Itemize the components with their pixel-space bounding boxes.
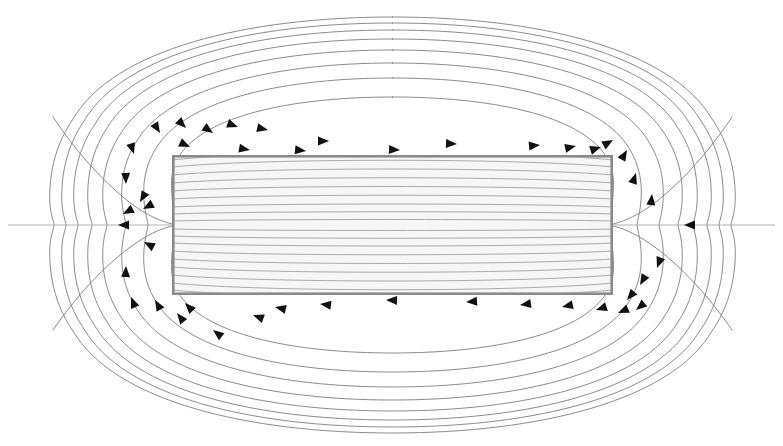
field-line-open-upper-left bbox=[53, 117, 172, 224]
direction-arrow-icon bbox=[628, 172, 640, 185]
direction-arrow-icon bbox=[684, 221, 695, 230]
direction-arrow-icon bbox=[595, 302, 608, 314]
direction-arrow-icon bbox=[178, 138, 192, 151]
direction-arrow-icon bbox=[295, 145, 307, 155]
direction-arrow-icon bbox=[446, 139, 457, 148]
direction-arrow-icon bbox=[618, 148, 631, 162]
direction-arrow-icon bbox=[175, 117, 189, 131]
direction-arrow-icon bbox=[210, 326, 224, 340]
bar-magnet-body bbox=[173, 156, 611, 293]
direction-arrow-icon bbox=[173, 310, 187, 324]
direction-arrow-icon bbox=[624, 289, 638, 303]
direction-arrow-icon bbox=[256, 123, 269, 134]
direction-arrow-icon bbox=[319, 300, 331, 310]
direction-arrow-icon bbox=[561, 300, 574, 311]
direction-arrow-icon bbox=[318, 137, 329, 146]
direction-arrow-icon bbox=[150, 121, 163, 135]
direction-arrow-icon bbox=[127, 295, 139, 309]
direction-arrow-icon bbox=[118, 221, 129, 230]
direction-arrow-icon bbox=[386, 296, 397, 305]
direction-arrow-icon bbox=[633, 299, 647, 313]
field-line-open-lower-left bbox=[53, 226, 172, 330]
direction-arrow-icon bbox=[519, 299, 531, 309]
direction-arrow-icon bbox=[646, 194, 656, 206]
direction-arrow-icon bbox=[201, 123, 215, 137]
direction-arrow-icon bbox=[274, 303, 287, 314]
direction-arrow-icon bbox=[151, 298, 164, 312]
field-line-open-upper-right bbox=[613, 117, 732, 224]
direction-arrow-icon bbox=[601, 136, 615, 149]
direction-arrow-icon bbox=[251, 311, 264, 323]
direction-arrow-icon bbox=[136, 190, 149, 204]
direction-arrow-icon bbox=[564, 142, 577, 153]
field-line-open-lower-right bbox=[613, 226, 732, 330]
direction-arrow-icon bbox=[238, 144, 250, 155]
magnetic-field-figure: Cross-section of a rectangular bar magne… bbox=[0, 0, 783, 446]
direction-arrow-icon bbox=[389, 145, 400, 155]
direction-arrow-icon bbox=[182, 300, 196, 314]
direction-arrow-icon bbox=[466, 297, 478, 307]
direction-arrow-icon bbox=[529, 141, 541, 151]
field-diagram-canvas bbox=[0, 0, 783, 446]
direction-arrow-icon bbox=[126, 142, 138, 155]
